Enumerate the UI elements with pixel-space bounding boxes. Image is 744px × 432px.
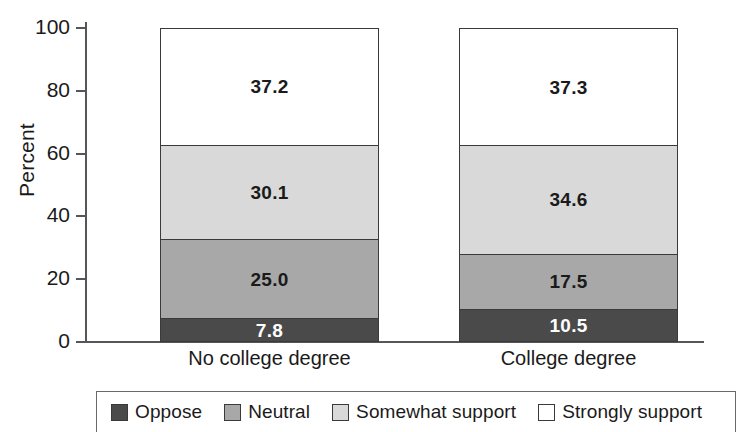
bar-2: 37.334.617.510.5 — [459, 28, 678, 342]
y-axis-tick — [76, 153, 86, 155]
y-axis-tick — [76, 278, 86, 280]
y-axis-tick — [76, 341, 86, 343]
legend-item[interactable]: Oppose — [111, 401, 202, 423]
y-axis-tick — [76, 90, 86, 92]
y-axis-tick-label: 20 — [0, 266, 70, 290]
legend-label: Neutral — [248, 401, 310, 423]
y-axis-tick-label: 80 — [0, 78, 70, 102]
y-axis-tick-label: 100 — [0, 15, 70, 39]
legend-label: Somewhat support — [356, 401, 516, 423]
legend-item[interactable]: Somewhat support — [332, 401, 516, 423]
y-axis-tick — [76, 27, 86, 29]
y-axis-tick — [76, 215, 86, 217]
bar-segment: 34.6 — [459, 145, 678, 254]
stacked-bar-chart: Percent 100806040200 37.230.125.07.837.3… — [0, 0, 744, 432]
y-axis-tick-label: 40 — [0, 203, 70, 227]
legend-label: Oppose — [135, 401, 202, 423]
chart-legend: OpposeNeutralSomewhat supportStrongly su… — [96, 391, 736, 432]
legend-swatch-icon — [224, 404, 241, 421]
y-axis-line — [85, 22, 87, 343]
legend-swatch-icon — [332, 404, 349, 421]
y-axis-tick-label: 60 — [0, 141, 70, 165]
bar-segment-value: 25.0 — [250, 270, 288, 289]
bar-segment: 25.0 — [160, 239, 379, 318]
bar-segment-value: 37.2 — [250, 77, 288, 96]
bar-segment: 30.1 — [160, 145, 379, 240]
bar-segment-value: 10.5 — [549, 316, 587, 335]
legend-swatch-icon — [111, 404, 128, 421]
legend-swatch-icon — [538, 404, 555, 421]
x-axis-category-label: No college degree — [160, 347, 379, 370]
legend-label: Strongly support — [562, 401, 702, 423]
bar-segment-value: 30.1 — [250, 183, 288, 202]
legend-item[interactable]: Strongly support — [538, 401, 702, 423]
bar-segment: 37.3 — [459, 28, 678, 145]
bar-segment: 10.5 — [459, 309, 678, 342]
bar-segment: 7.8 — [160, 318, 379, 342]
bar-segment-value: 34.6 — [549, 190, 587, 209]
bar-1: 37.230.125.07.8 — [160, 28, 379, 342]
legend-item[interactable]: Neutral — [224, 401, 310, 423]
y-axis-tick-label: 0 — [0, 329, 70, 353]
x-axis-category-label: College degree — [459, 347, 678, 370]
bar-segment: 17.5 — [459, 254, 678, 309]
bar-segment-value: 7.8 — [256, 321, 283, 340]
bar-segment-value: 17.5 — [549, 272, 587, 291]
bar-segment-value: 37.3 — [549, 78, 587, 97]
bar-segment: 37.2 — [160, 28, 379, 145]
